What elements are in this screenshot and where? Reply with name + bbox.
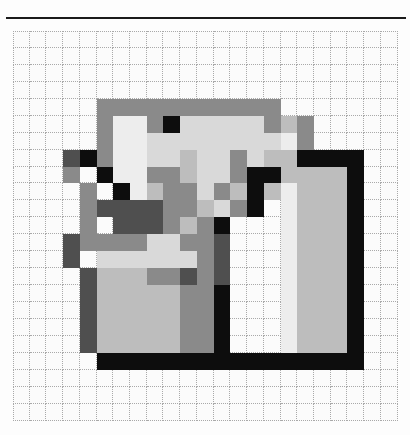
grid-cell[interactable] (163, 82, 180, 99)
grid-cell[interactable] (197, 234, 214, 251)
grid-cell[interactable] (297, 302, 314, 319)
grid-cell[interactable] (347, 251, 364, 268)
grid-cell[interactable] (314, 31, 331, 48)
grid-cell[interactable] (147, 31, 164, 48)
grid-cell[interactable] (297, 31, 314, 48)
grid-cell[interactable] (381, 31, 398, 48)
grid-cell[interactable] (63, 65, 80, 82)
grid-cell[interactable] (130, 268, 147, 285)
grid-cell[interactable] (113, 217, 130, 234)
grid-cell[interactable] (281, 234, 298, 251)
grid-cell[interactable] (331, 167, 348, 184)
grid-cell[interactable] (247, 404, 264, 421)
grid-cell[interactable] (197, 183, 214, 200)
grid-cell[interactable] (80, 251, 97, 268)
grid-cell[interactable] (314, 268, 331, 285)
grid-cell[interactable] (180, 82, 197, 99)
grid-cell[interactable] (247, 268, 264, 285)
grid-cell[interactable] (347, 336, 364, 353)
grid-cell[interactable] (197, 167, 214, 184)
grid-cell[interactable] (297, 200, 314, 217)
grid-cell[interactable] (46, 370, 63, 387)
grid-cell[interactable] (80, 167, 97, 184)
grid-cell[interactable] (297, 319, 314, 336)
grid-cell[interactable] (281, 183, 298, 200)
grid-cell[interactable] (214, 31, 231, 48)
grid-cell[interactable] (364, 150, 381, 167)
grid-cell[interactable] (264, 217, 281, 234)
grid-cell[interactable] (163, 302, 180, 319)
grid-cell[interactable] (381, 133, 398, 150)
grid-cell[interactable] (80, 133, 97, 150)
grid-cell[interactable] (63, 82, 80, 99)
grid-cell[interactable] (264, 268, 281, 285)
grid-cell[interactable] (97, 116, 114, 133)
grid-cell[interactable] (214, 133, 231, 150)
grid-cell[interactable] (331, 336, 348, 353)
grid-cell[interactable] (30, 31, 47, 48)
grid-cell[interactable] (30, 183, 47, 200)
grid-cell[interactable] (264, 65, 281, 82)
grid-cell[interactable] (214, 404, 231, 421)
grid-cell[interactable] (163, 404, 180, 421)
grid-cell[interactable] (63, 167, 80, 184)
grid-cell[interactable] (180, 319, 197, 336)
grid-cell[interactable] (281, 387, 298, 404)
grid-cell[interactable] (197, 217, 214, 234)
grid-cell[interactable] (63, 200, 80, 217)
grid-cell[interactable] (214, 251, 231, 268)
grid-cell[interactable] (113, 150, 130, 167)
grid-cell[interactable] (147, 302, 164, 319)
grid-cell[interactable] (80, 217, 97, 234)
grid-cell[interactable] (347, 150, 364, 167)
grid-cell[interactable] (180, 370, 197, 387)
grid-cell[interactable] (63, 217, 80, 234)
grid-cell[interactable] (364, 200, 381, 217)
grid-cell[interactable] (130, 336, 147, 353)
grid-cell[interactable] (347, 217, 364, 234)
grid-cell[interactable] (197, 99, 214, 116)
grid-cell[interactable] (97, 285, 114, 302)
grid-cell[interactable] (214, 268, 231, 285)
grid-cell[interactable] (147, 387, 164, 404)
grid-cell[interactable] (80, 82, 97, 99)
grid-cell[interactable] (331, 99, 348, 116)
grid-cell[interactable] (347, 387, 364, 404)
grid-cell[interactable] (281, 217, 298, 234)
grid-cell[interactable] (281, 336, 298, 353)
grid-cell[interactable] (30, 99, 47, 116)
grid-cell[interactable] (264, 234, 281, 251)
grid-cell[interactable] (297, 99, 314, 116)
pixel-grid-canvas[interactable] (13, 31, 398, 421)
grid-cell[interactable] (130, 234, 147, 251)
grid-cell[interactable] (130, 404, 147, 421)
grid-cell[interactable] (97, 167, 114, 184)
grid-cell[interactable] (381, 48, 398, 65)
grid-cell[interactable] (381, 251, 398, 268)
grid-cell[interactable] (230, 370, 247, 387)
grid-cell[interactable] (230, 31, 247, 48)
grid-cell[interactable] (314, 353, 331, 370)
grid-cell[interactable] (314, 319, 331, 336)
grid-cell[interactable] (281, 302, 298, 319)
grid-cell[interactable] (13, 251, 30, 268)
grid-cell[interactable] (180, 268, 197, 285)
grid-cell[interactable] (147, 319, 164, 336)
grid-cell[interactable] (113, 31, 130, 48)
grid-cell[interactable] (230, 251, 247, 268)
grid-cell[interactable] (264, 370, 281, 387)
grid-cell[interactable] (97, 133, 114, 150)
grid-cell[interactable] (13, 285, 30, 302)
grid-cell[interactable] (97, 48, 114, 65)
grid-cell[interactable] (80, 370, 97, 387)
grid-cell[interactable] (46, 65, 63, 82)
grid-cell[interactable] (364, 133, 381, 150)
grid-cell[interactable] (381, 200, 398, 217)
grid-cell[interactable] (197, 116, 214, 133)
grid-cell[interactable] (80, 200, 97, 217)
grid-cell[interactable] (247, 217, 264, 234)
grid-cell[interactable] (163, 268, 180, 285)
grid-cell[interactable] (281, 82, 298, 99)
grid-cell[interactable] (180, 200, 197, 217)
grid-cell[interactable] (214, 319, 231, 336)
